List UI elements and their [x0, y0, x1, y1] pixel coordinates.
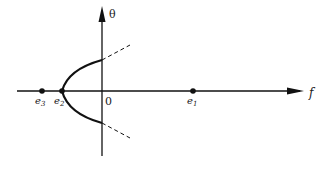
label-e1: e1: [187, 95, 197, 108]
f-axis-label: f: [308, 86, 316, 100]
phase-diagram: f θ 0 e3 e2 e1: [0, 0, 323, 170]
f-axis-arrowhead-icon: [287, 88, 304, 95]
point-e3: [39, 88, 45, 94]
point-e2: [59, 88, 65, 94]
point-e1: [190, 88, 196, 94]
theta-axis-arrowhead-icon: [99, 6, 106, 22]
lower-dashed-continuation: [102, 123, 130, 138]
label-e3: e3: [35, 95, 46, 108]
upper-dashed-continuation: [102, 45, 130, 60]
origin-label: 0: [105, 95, 112, 108]
theta-axis-label: θ: [109, 8, 116, 21]
